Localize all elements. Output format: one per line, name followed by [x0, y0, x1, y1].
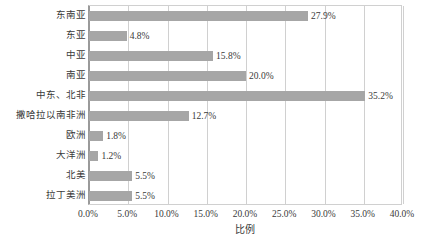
category-label: 南亚	[2, 65, 86, 85]
bar-value-label: 12.7%	[192, 107, 217, 125]
x-tick-label: 35.0%	[350, 207, 375, 221]
y-axis-category-labels: 东南亚东亚中亚南亚中东、北非撒哈拉以南非洲欧洲大洋洲北美拉丁美洲	[0, 5, 86, 205]
bar-value-label: 5.5%	[135, 167, 155, 185]
bar-row: 5.5%	[89, 166, 403, 186]
bar	[89, 91, 365, 101]
category-label: 撒哈拉以南非洲	[2, 105, 86, 125]
bar-row: 35.2%	[89, 86, 403, 106]
x-tick-label: 40.0%	[390, 207, 415, 221]
bar-value-label: 5.5%	[135, 187, 155, 205]
x-tick-label: 20.0%	[233, 207, 258, 221]
x-tick-label: 0.0%	[78, 207, 98, 221]
plot-area: 27.9%4.8%15.8%20.0%35.2%12.7%1.8%1.2%5.5…	[88, 5, 402, 205]
bar-value-label: 35.2%	[368, 87, 393, 105]
category-label: 拉丁美洲	[2, 185, 86, 205]
bar	[89, 151, 98, 161]
bar-row: 15.8%	[89, 46, 403, 66]
x-axis-title: 比例	[0, 221, 430, 236]
x-tick-label: 15.0%	[193, 207, 218, 221]
bar-row: 1.8%	[89, 126, 403, 146]
category-label: 北美	[2, 165, 86, 185]
bar-value-label: 20.0%	[249, 67, 274, 85]
bar-value-label: 1.8%	[106, 127, 126, 145]
bar	[89, 111, 189, 121]
category-label: 东亚	[2, 25, 86, 45]
bar-value-label: 27.9%	[311, 7, 336, 25]
bar-row: 1.2%	[89, 146, 403, 166]
bar	[89, 31, 127, 41]
bar-row: 4.8%	[89, 26, 403, 46]
bar-row: 20.0%	[89, 66, 403, 86]
bar	[89, 131, 103, 141]
bar-value-label: 1.2%	[101, 147, 121, 165]
category-label: 中亚	[2, 45, 86, 65]
bar	[89, 11, 308, 21]
gridline-40.0%	[403, 6, 404, 204]
x-tick-label: 5.0%	[117, 207, 137, 221]
bar	[89, 71, 246, 81]
x-tick-label: 25.0%	[272, 207, 297, 221]
x-tick-label: 30.0%	[311, 207, 336, 221]
bar	[89, 171, 132, 181]
category-label: 欧洲	[2, 125, 86, 145]
x-tick-label: 10.0%	[154, 207, 179, 221]
category-label: 中东、北非	[2, 85, 86, 105]
bar-row: 5.5%	[89, 186, 403, 206]
bar-value-label: 15.8%	[216, 47, 241, 65]
x-axis-title-text: 比例	[235, 224, 255, 235]
bar-row: 12.7%	[89, 106, 403, 126]
bar	[89, 51, 213, 61]
category-label: 大洋洲	[2, 145, 86, 165]
bar	[89, 191, 132, 201]
category-label: 东南亚	[2, 5, 86, 25]
bar-chart: 东南亚东亚中亚南亚中东、北非撒哈拉以南非洲欧洲大洋洲北美拉丁美洲 27.9%4.…	[0, 0, 430, 248]
bar-value-label: 4.8%	[130, 27, 150, 45]
bar-row: 27.9%	[89, 6, 403, 26]
